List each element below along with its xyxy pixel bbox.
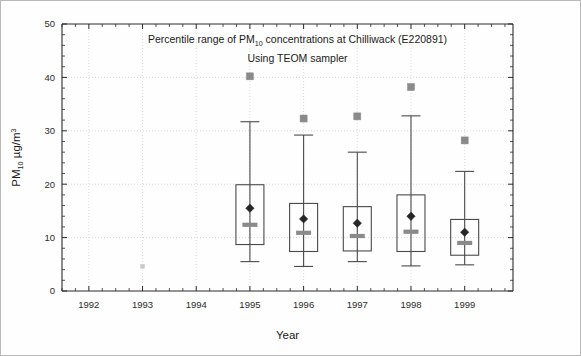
median-marker <box>242 223 257 227</box>
y-tick-label: 40 <box>44 72 55 83</box>
y-tick-label: 10 <box>44 232 55 243</box>
x-tick-label: 1998 <box>400 299 421 310</box>
median-marker <box>350 234 365 238</box>
y-tick-label: 50 <box>44 18 55 29</box>
outlier-marker-upper <box>461 137 468 144</box>
boxplot-group-1995 <box>236 73 264 262</box>
median-marker <box>296 231 311 235</box>
y-tick-label: 20 <box>44 179 55 190</box>
outlier-marker-upper <box>354 113 361 120</box>
x-tick-label: 1995 <box>239 299 260 310</box>
mean-marker <box>299 215 307 223</box>
x-tick-label: 1992 <box>78 299 99 310</box>
x-tick-label: 1999 <box>454 299 475 310</box>
mean-marker <box>460 228 468 236</box>
boxplot-group-1998 <box>397 84 425 266</box>
y-tick-label: 0 <box>50 285 55 296</box>
boxplot-group-1996 <box>290 115 318 266</box>
y-tick-label: 30 <box>44 125 55 136</box>
x-tick-label: 1993 <box>132 299 153 310</box>
outlier-marker-upper <box>246 73 253 80</box>
outlier-marker-upper <box>300 115 307 122</box>
median-marker <box>403 230 418 234</box>
median-marker <box>457 241 472 245</box>
mean-marker <box>246 204 254 212</box>
outlier-marker-upper <box>407 84 414 91</box>
stray-mark <box>141 264 145 268</box>
mean-marker <box>407 212 415 220</box>
y-axis-title: PM10 µg/m3 <box>9 128 25 186</box>
boxplot-chart: 0102030405019921993199419951996199719981… <box>0 0 581 356</box>
x-tick-label: 1994 <box>186 299 207 310</box>
chart-subtitle: Using TEOM sampler <box>247 52 348 64</box>
chart-title: Percentile range of PM10 concentrations … <box>148 33 447 48</box>
x-axis-title: Year <box>276 329 299 341</box>
mean-marker <box>353 219 361 227</box>
x-tick-label: 1996 <box>293 299 314 310</box>
x-tick-label: 1997 <box>347 299 368 310</box>
figure-page: 0102030405019921993199419951996199719981… <box>0 0 581 356</box>
